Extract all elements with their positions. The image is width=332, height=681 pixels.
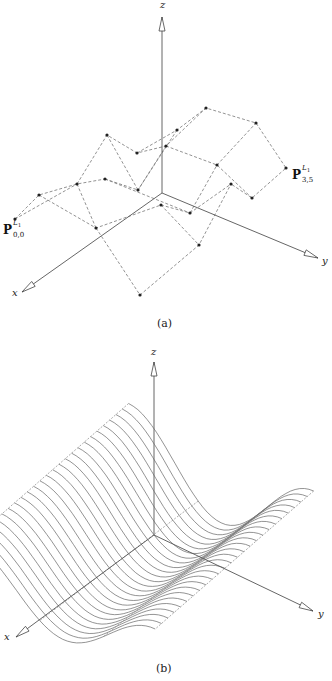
figure-a: z x y P L 1 0,0 P L 1 3,5 (a) bbox=[3, 0, 328, 330]
control-point bbox=[284, 166, 287, 169]
control-point bbox=[254, 121, 257, 124]
surface-curve bbox=[129, 404, 314, 526]
control-point bbox=[103, 177, 106, 180]
z-axis-label: z bbox=[150, 346, 157, 357]
y-axis-label: y bbox=[321, 255, 328, 266]
svg-text:1: 1 bbox=[18, 222, 21, 228]
control-point bbox=[138, 293, 141, 296]
y-axis bbox=[154, 535, 313, 611]
control-net-edge bbox=[15, 179, 105, 219]
control-point bbox=[135, 151, 138, 154]
control-point bbox=[250, 196, 253, 199]
control-point bbox=[159, 203, 162, 206]
control-net-edge bbox=[105, 179, 190, 213]
control-point bbox=[204, 106, 207, 109]
y-axis bbox=[162, 193, 318, 258]
y-arrow-icon bbox=[304, 250, 318, 258]
caption-a: (a) bbox=[157, 317, 172, 330]
z-axis-label: z bbox=[159, 0, 166, 10]
control-net-edge bbox=[161, 205, 199, 245]
x-arrow-icon bbox=[22, 281, 35, 292]
control-net-edge bbox=[96, 184, 231, 295]
control-point bbox=[136, 188, 139, 191]
control-point bbox=[188, 211, 191, 214]
z-arrow-icon bbox=[159, 17, 165, 31]
control-point bbox=[175, 128, 178, 131]
svg-text:P: P bbox=[292, 168, 301, 182]
x-axis bbox=[22, 193, 162, 292]
surface-curve bbox=[97, 431, 282, 549]
svg-text:P: P bbox=[3, 223, 12, 237]
figure-b: z x y (b) bbox=[0, 346, 324, 675]
svg-text:3,5: 3,5 bbox=[302, 176, 313, 184]
surface-boundary bbox=[155, 491, 313, 629]
control-net-edge bbox=[77, 108, 286, 198]
control-point bbox=[164, 144, 167, 147]
surface-curve bbox=[122, 409, 307, 530]
control-net-edge bbox=[137, 108, 206, 153]
surface-boundary bbox=[0, 404, 129, 542]
control-net-edge bbox=[39, 195, 161, 228]
svg-text:1: 1 bbox=[307, 167, 310, 173]
y-arrow-icon bbox=[299, 602, 313, 611]
x-arrow-icon bbox=[16, 626, 29, 637]
control-point bbox=[229, 182, 232, 185]
surface-curve bbox=[103, 426, 288, 544]
control-point bbox=[94, 226, 97, 229]
figure-canvas: z x y P L 1 0,0 P L 1 3,5 (a) z x y (b) bbox=[0, 0, 332, 681]
label-p35: P L 1 3,5 bbox=[292, 164, 313, 184]
control-point bbox=[197, 243, 200, 246]
control-net-edge bbox=[161, 184, 231, 213]
control-net-edge bbox=[166, 146, 252, 198]
control-point bbox=[215, 163, 218, 166]
control-point bbox=[105, 133, 108, 136]
control-net-edge bbox=[190, 123, 256, 213]
control-net-edge bbox=[15, 184, 77, 219]
control-point bbox=[37, 193, 40, 196]
x-axis-label: x bbox=[12, 287, 18, 298]
surface-curve bbox=[116, 415, 301, 535]
x-axis-label: x bbox=[4, 631, 10, 642]
y-axis-label: y bbox=[317, 608, 324, 619]
caption-b: (b) bbox=[156, 662, 172, 675]
svg-text:0,0: 0,0 bbox=[13, 231, 24, 239]
control-point bbox=[75, 182, 78, 185]
z-arrow-icon bbox=[151, 362, 157, 376]
surface-curves bbox=[0, 404, 314, 643]
label-p00: P L 1 0,0 bbox=[3, 219, 24, 239]
surface-curve bbox=[0, 536, 162, 638]
control-net-edge bbox=[77, 184, 96, 228]
control-net-edge bbox=[138, 130, 177, 190]
